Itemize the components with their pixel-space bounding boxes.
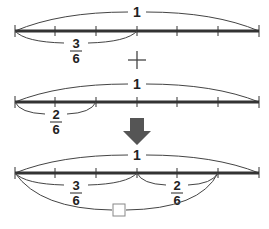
fraction-bracket: [15, 173, 64, 185]
fraction-bracket: [88, 173, 137, 185]
fraction-bracket: [67, 102, 96, 114]
whole-label: 1: [133, 147, 141, 163]
fraction-bracket: [88, 31, 137, 43]
whole-arc: [15, 84, 128, 102]
sum-bracket: [15, 173, 112, 210]
sum-bracket: [126, 173, 218, 210]
whole-label: 1: [133, 76, 141, 92]
fraction-numerator: 2: [173, 178, 180, 193]
whole-arc: [146, 155, 259, 173]
fraction-numerator: 2: [52, 107, 59, 122]
fraction-bracket: [137, 173, 166, 185]
whole-arc: [15, 155, 128, 173]
fraction-bracket: [15, 31, 64, 43]
fraction-numerator: 3: [72, 178, 79, 193]
answer-box[interactable]: [113, 204, 125, 216]
whole-arc: [146, 12, 259, 31]
fraction-bracket: [15, 102, 45, 114]
whole-label: 1: [133, 4, 141, 20]
fraction-denominator: 6: [72, 193, 79, 208]
number-line-row-3: 1 3 6 2 6: [15, 147, 259, 216]
fraction-denominator: 6: [173, 193, 180, 208]
plus-icon: [128, 51, 146, 69]
down-arrow-icon: [123, 118, 151, 145]
whole-arc: [15, 12, 128, 31]
whole-arc: [146, 84, 259, 102]
fraction-addition-diagram: 1 3 6 1: [0, 0, 269, 229]
fraction-denominator: 6: [72, 51, 79, 66]
fraction-numerator: 3: [72, 36, 79, 51]
fraction-denominator: 6: [52, 122, 59, 137]
fraction-bracket: [188, 173, 218, 185]
